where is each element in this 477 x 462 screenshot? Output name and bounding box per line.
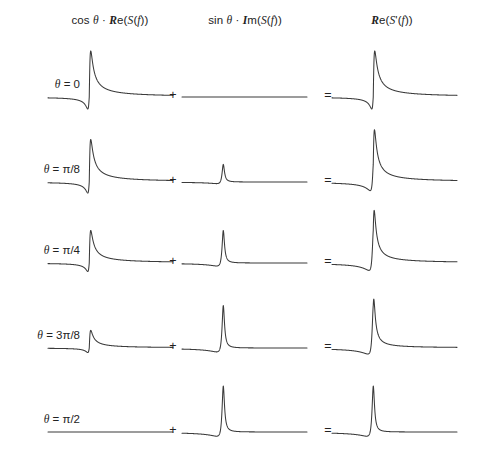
row-label-theta-pi-8: θ = π/8	[14, 163, 80, 175]
curve-theta-pi-2-imag-term	[182, 386, 307, 436]
row-label-theta-3pi-8: θ = 3π/8	[14, 329, 80, 341]
operator-plus-row-5: +	[166, 423, 180, 437]
curve-theta-pi-4-imag-term	[182, 230, 307, 265]
row-label-theta-0: θ = 0	[14, 78, 80, 90]
operator-equals-row-5: =	[321, 423, 335, 437]
column-header-result-label: Re(S'(f))	[371, 14, 412, 26]
operator-plus-row-3: +	[166, 254, 180, 268]
row-label-theta-pi-4: θ = π/4	[14, 244, 80, 256]
curve-theta-pi-4-result	[332, 210, 457, 270]
operator-plus-row-2: +	[166, 173, 180, 187]
curve-theta-pi-2-result	[332, 386, 457, 436]
curve-theta-3pi-8-imag-term	[182, 306, 307, 352]
operator-plus-row-1: +	[166, 88, 180, 102]
operator-equals-row-4: =	[321, 339, 335, 353]
curve-theta-3pi-8-result	[332, 299, 457, 354]
column-header-imag-term-label: sin θ · Im(S(f))	[208, 14, 282, 26]
column-header-result: Re(S'(f))	[282, 14, 477, 26]
curve-theta-pi-8-imag-term	[182, 164, 307, 183]
operator-equals-row-1: =	[321, 88, 335, 102]
row-label-theta-pi-2: θ = π/2	[14, 413, 80, 425]
phase-rotation-figure: cos θ · Re(S(f)) sin θ · Im(S(f)) Re(S'(…	[0, 0, 477, 462]
curve-theta-0-result	[332, 51, 457, 109]
operator-equals-row-3: =	[321, 254, 335, 268]
curve-layer	[0, 0, 477, 462]
operator-equals-row-2: =	[321, 173, 335, 187]
curve-theta-pi-8-result	[332, 130, 457, 191]
operator-plus-row-4: +	[166, 339, 180, 353]
